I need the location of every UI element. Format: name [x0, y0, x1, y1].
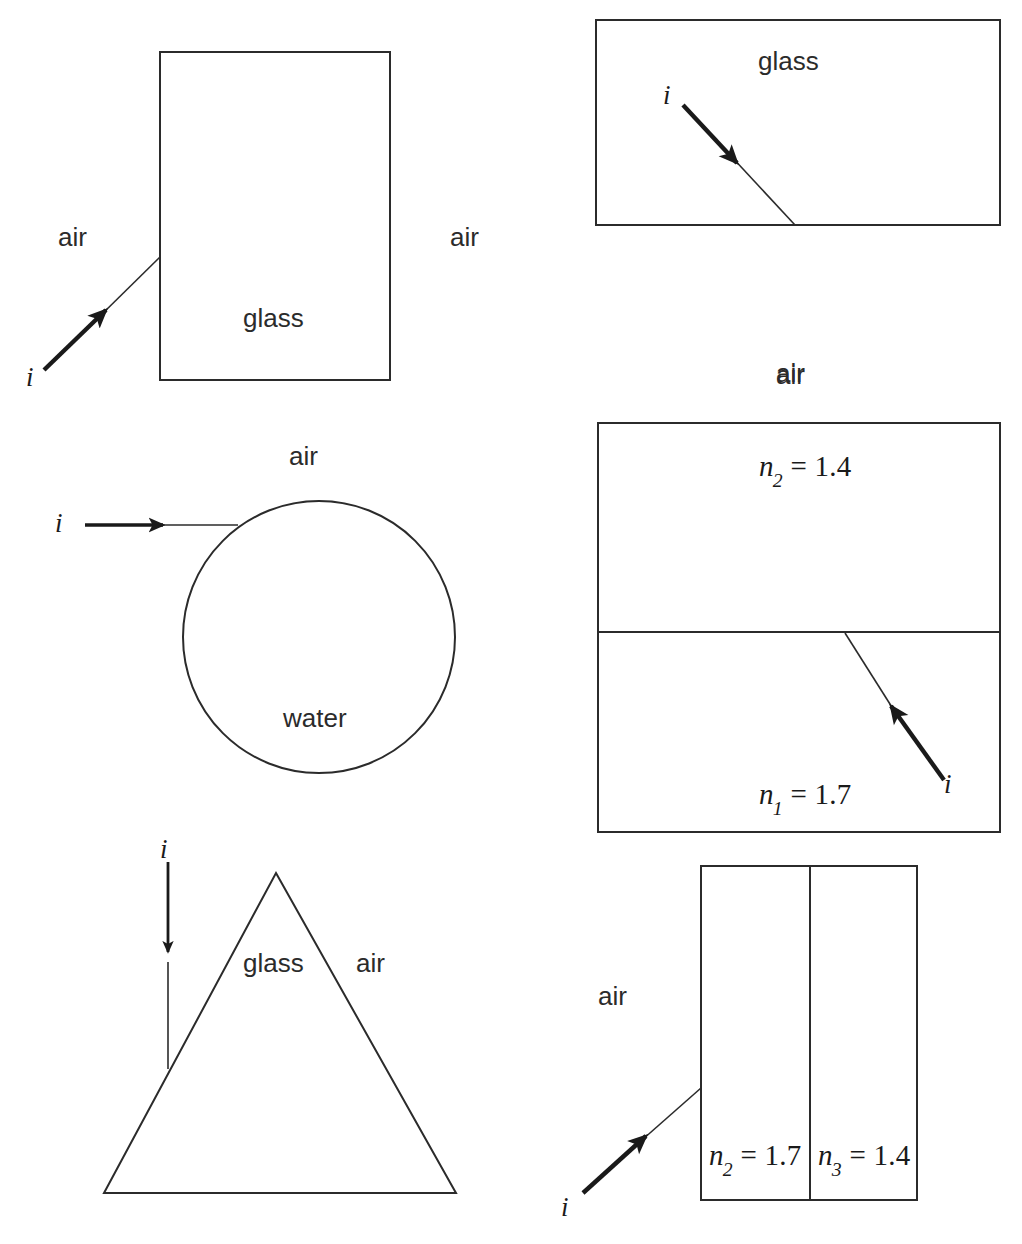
- index-value-n2-f: = 1.7: [741, 1139, 802, 1171]
- index-symbol-n1-d: n: [759, 778, 774, 810]
- label-index-n2-panel-f: n2 = 1.7: [709, 1141, 801, 1176]
- glass-prism-outline-e: [104, 873, 456, 1193]
- panel-e-geometry: [104, 862, 456, 1193]
- label-glass-panel-b: glass: [758, 48, 819, 74]
- label-water-panel-c: water: [283, 705, 347, 731]
- incident-ray-thin-b: [730, 155, 795, 225]
- label-ray-i-panel-f: i: [561, 1194, 569, 1221]
- label-air-panel-d: air: [776, 362, 805, 388]
- label-ray-i-panel-c: i: [55, 510, 63, 537]
- figure-canvas: air air glass i glass i air air water i …: [0, 0, 1022, 1244]
- index-symbol-n2-d: n: [759, 450, 774, 482]
- label-ray-i-panel-b: i: [663, 82, 671, 109]
- label-air-left-panel-a: air: [58, 224, 87, 250]
- incident-ray-thin-d: [845, 633, 895, 712]
- label-air-panel-c: air: [289, 443, 318, 469]
- label-index-n3-panel-f: n3 = 1.4: [818, 1141, 910, 1176]
- index-subscript-n2-d: 2: [773, 469, 783, 491]
- label-index-n1-panel-d: n1 = 1.7: [759, 780, 851, 815]
- label-air-right-panel-a: air: [450, 224, 479, 250]
- label-ray-i-panel-e: i: [160, 836, 168, 863]
- incident-ray-arrow-f: [583, 1136, 646, 1193]
- incident-ray-thin-a: [98, 257, 160, 318]
- label-glass-panel-a: glass: [243, 305, 304, 331]
- label-index-n2-panel-d: n2 = 1.4: [759, 452, 851, 487]
- index-subscript-n1-d: 1: [773, 797, 783, 819]
- label-glass-panel-e: glass: [243, 950, 304, 976]
- incident-ray-arrow-d: [891, 706, 944, 780]
- label-air-panel-e: air: [356, 950, 385, 976]
- panel-a-geometry: [44, 52, 390, 380]
- index-subscript-n2-f: 2: [723, 1158, 733, 1180]
- label-ray-i-panel-d: i: [944, 771, 952, 798]
- index-value-n1-d: = 1.7: [791, 778, 852, 810]
- index-value-n3-f: = 1.4: [850, 1139, 911, 1171]
- index-value-n2-d: = 1.4: [791, 450, 852, 482]
- index-subscript-n3-f: 3: [832, 1158, 842, 1180]
- index-symbol-n3-f: n: [818, 1139, 833, 1171]
- incident-ray-arrow-a: [44, 310, 106, 370]
- incident-ray-thin-f: [642, 1088, 701, 1140]
- diagram-vector-layer: [0, 0, 1022, 1244]
- label-air-panel-f: air: [598, 983, 627, 1009]
- panel-c-geometry: [85, 501, 455, 773]
- index-symbol-n2-f: n: [709, 1139, 724, 1171]
- label-ray-i-panel-a: i: [26, 364, 34, 391]
- incident-ray-arrow-b: [683, 105, 737, 163]
